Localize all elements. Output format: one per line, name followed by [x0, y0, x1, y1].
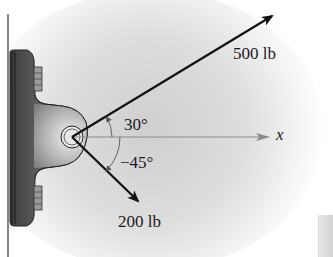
x-axis-label: x: [276, 126, 284, 143]
force-label-500lb: 500 lb: [233, 45, 276, 62]
adjacent-page-edge: [318, 215, 333, 257]
force-label-200lb: 200 lb: [118, 213, 161, 230]
angle-label-30: 30°: [124, 116, 148, 133]
angle-label-neg45: −45°: [120, 154, 153, 171]
